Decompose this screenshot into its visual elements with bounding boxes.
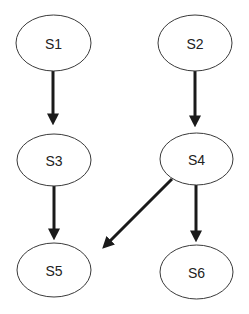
node-s1[interactable]: S1 — [16, 15, 91, 71]
node-s3[interactable]: S3 — [17, 134, 91, 186]
node-s5[interactable]: S5 — [17, 243, 91, 297]
node-s1-label: S1 — [45, 36, 62, 52]
node-s4-label: S4 — [188, 152, 205, 168]
node-s6[interactable]: S6 — [160, 245, 233, 299]
node-s2-label: S2 — [186, 36, 203, 52]
node-s4[interactable]: S4 — [160, 133, 233, 185]
node-s2[interactable]: S2 — [158, 15, 232, 71]
node-s6-label: S6 — [188, 265, 205, 281]
edge-s4-s5 — [106, 179, 172, 245]
node-s3-label: S3 — [45, 153, 62, 169]
node-s5-label: S5 — [45, 263, 62, 279]
state-diagram: S1 S2 S3 S4 S5 S6 — [0, 0, 249, 314]
